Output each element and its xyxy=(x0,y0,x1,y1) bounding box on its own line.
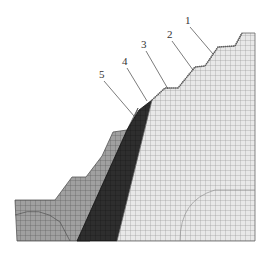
label-3: 3 xyxy=(141,38,168,89)
label-text: 3 xyxy=(141,38,147,50)
leader-line xyxy=(172,41,193,70)
label-4: 4 xyxy=(122,55,147,101)
label-text: 5 xyxy=(99,68,105,80)
slope-mesh-diagram: 1 2 3 4 5 xyxy=(0,0,270,257)
label-5: 5 xyxy=(99,68,134,116)
label-1: 1 xyxy=(185,14,213,54)
leader-line xyxy=(146,51,168,89)
leader-line xyxy=(127,68,147,101)
label-text: 2 xyxy=(167,28,173,40)
label-text: 1 xyxy=(185,14,191,26)
leader-line xyxy=(104,81,134,116)
label-2: 2 xyxy=(167,28,193,70)
leader-line xyxy=(190,27,213,54)
label-text: 4 xyxy=(122,55,128,67)
